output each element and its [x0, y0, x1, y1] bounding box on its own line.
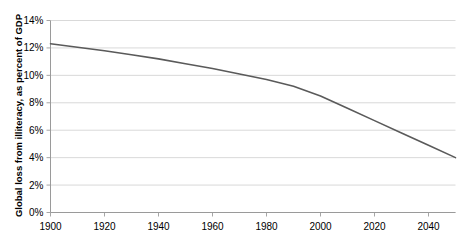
y-tick-label: 4%: [29, 152, 44, 163]
x-tick-label: 2020: [363, 221, 386, 232]
y-tick-label: 0%: [29, 207, 44, 218]
line-chart: 0%2%4%6%8%10%12%14% 19001920194019601980…: [0, 0, 461, 244]
y-tick-labels-group: 0%2%4%6%8%10%12%14%: [23, 15, 43, 218]
y-tick-label: 10%: [23, 70, 43, 81]
x-tick-labels-group: 19001920194019601980200020202040: [39, 221, 440, 232]
x-tick-label: 2040: [417, 221, 440, 232]
x-tick-label: 2000: [309, 221, 332, 232]
axis-lines-group: [51, 21, 456, 213]
x-tick-label: 1960: [201, 221, 224, 232]
y-tick-label: 6%: [29, 125, 44, 136]
y-tick-marks-group: [47, 21, 51, 213]
x-tick-label: 1940: [147, 221, 170, 232]
x-tick-label: 1900: [39, 221, 62, 232]
x-tick-marks-group: [51, 213, 429, 217]
gridlines-group: [51, 21, 456, 213]
y-tick-label: 8%: [29, 97, 44, 108]
x-tick-label: 1920: [93, 221, 116, 232]
series-line: [51, 44, 456, 158]
data-series-group: [51, 44, 456, 158]
x-tick-label: 1980: [255, 221, 278, 232]
chart-page: Global loss from illiteracy, as percent …: [0, 0, 461, 244]
y-tick-label: 12%: [23, 42, 43, 53]
y-tick-label: 14%: [23, 15, 43, 26]
y-tick-label: 2%: [29, 180, 44, 191]
